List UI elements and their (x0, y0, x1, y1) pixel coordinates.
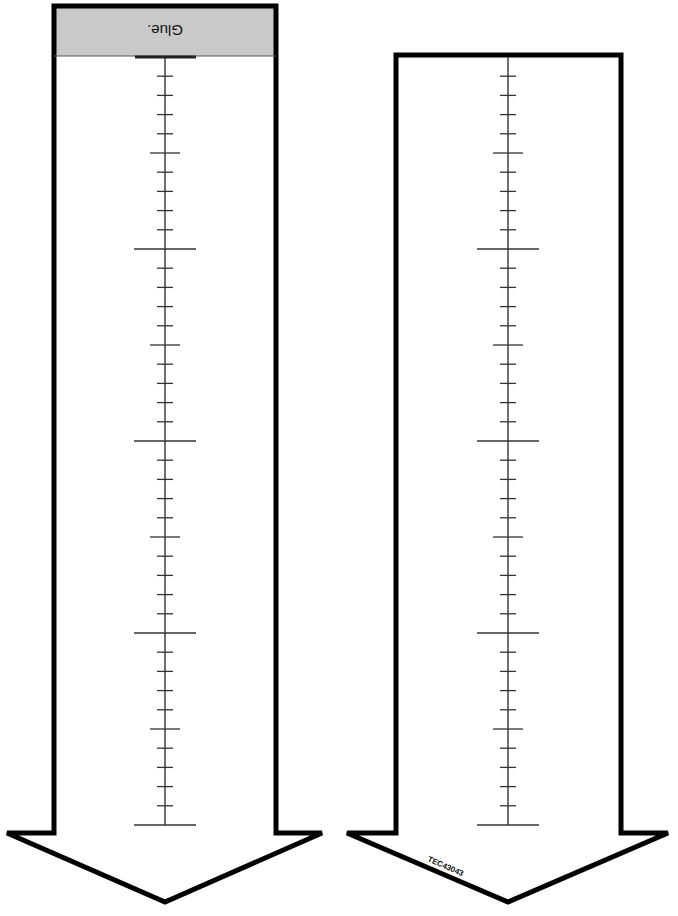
left-ruler (134, 57, 196, 825)
right-arrow: TEC43043 (347, 55, 668, 902)
ruler-arrows-diagram: Glue. TEC43043 (0, 0, 678, 916)
left-arrow: Glue. (7, 6, 322, 902)
glue-label: Glue. (147, 22, 183, 39)
right-ruler (477, 57, 539, 825)
